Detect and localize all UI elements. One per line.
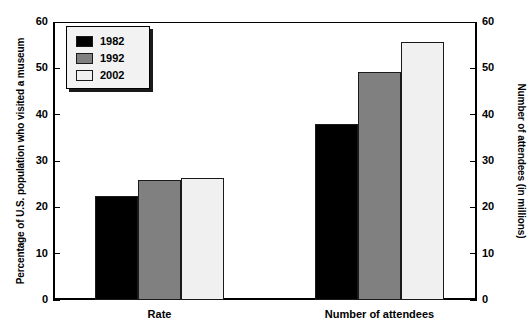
- legend-swatch-icon: [76, 70, 93, 81]
- tick-label: 10: [4, 248, 48, 259]
- tick-mark: [470, 253, 477, 254]
- tick-mark: [470, 114, 477, 115]
- legend-swatch-icon: [76, 36, 93, 47]
- tick-label: 30: [482, 155, 526, 166]
- tick-label: 30: [4, 155, 48, 166]
- tick-mark: [470, 68, 477, 69]
- bar-rate-2002: [181, 178, 224, 300]
- tick-mark: [53, 161, 60, 162]
- tick-mark: [53, 300, 60, 301]
- tick-mark: [53, 22, 60, 23]
- legend-label: 2002: [100, 69, 124, 82]
- tick-label: 60: [4, 16, 48, 27]
- tick-label: 10: [482, 248, 526, 259]
- tick-label: 40: [482, 109, 526, 120]
- bar-number-of-attendees-2002: [401, 42, 444, 300]
- tick-mark: [470, 207, 477, 208]
- category-label: Number of attendees: [280, 307, 480, 321]
- tick-label: 0: [4, 294, 48, 305]
- bar-number-of-attendees-1992: [358, 72, 401, 300]
- tick-mark: [470, 300, 477, 301]
- tick-label: 20: [4, 201, 48, 212]
- tick-label: 20: [482, 201, 526, 212]
- tick-label: 50: [482, 62, 526, 73]
- legend-label: 1982: [100, 35, 124, 48]
- tick-mark: [53, 68, 60, 69]
- bar-rate-1982: [95, 196, 138, 300]
- tick-label: 60: [482, 16, 526, 27]
- tick-mark: [470, 161, 477, 162]
- tick-mark: [53, 207, 60, 208]
- legend-swatch-icon: [76, 53, 93, 64]
- bar-rate-1992: [138, 180, 181, 300]
- category-label: Rate: [60, 307, 260, 321]
- legend-label: 1992: [100, 52, 124, 65]
- bar-chart: Percentage of U.S. population who visite…: [0, 0, 530, 331]
- tick-mark: [53, 114, 60, 115]
- tick-mark: [53, 253, 60, 254]
- tick-label: 40: [4, 109, 48, 120]
- tick-label: 0: [482, 294, 526, 305]
- bar-number-of-attendees-1982: [315, 124, 358, 300]
- chart-legend: 198219922002: [66, 26, 150, 89]
- tick-mark: [470, 22, 477, 23]
- tick-label: 50: [4, 62, 48, 73]
